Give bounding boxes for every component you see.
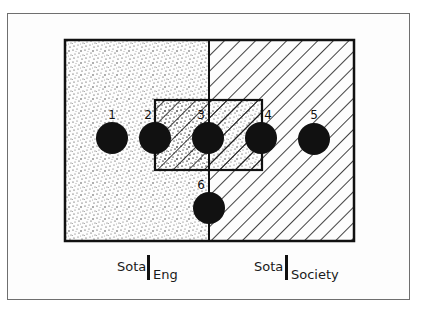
- label-eng-prefix: Sota: [117, 259, 146, 274]
- svg-text:5: 5: [310, 108, 318, 122]
- diagram-canvas: 1 2 3 4 5 6: [0, 0, 422, 312]
- svg-text:3: 3: [197, 108, 205, 122]
- label-eng-suffix: Eng: [153, 267, 178, 282]
- svg-text:2: 2: [144, 108, 152, 122]
- label-society-suffix: Society: [291, 267, 339, 282]
- label-society-bar: [285, 255, 288, 280]
- svg-text:6: 6: [197, 178, 205, 192]
- label-society-prefix: Sota: [254, 259, 283, 274]
- label-eng-bar: [147, 255, 150, 280]
- svg-text:1: 1: [108, 108, 116, 122]
- svg-text:4: 4: [264, 108, 272, 122]
